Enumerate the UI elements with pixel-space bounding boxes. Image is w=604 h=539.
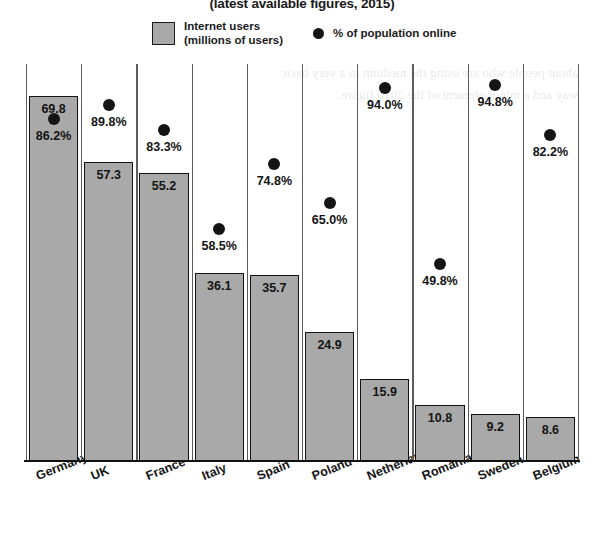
percent-dot-germany[interactable] bbox=[48, 113, 60, 125]
percent-value-label: 89.8% bbox=[73, 115, 144, 129]
percent-dot-uk[interactable] bbox=[103, 99, 115, 111]
percent-dot-france[interactable] bbox=[158, 124, 170, 136]
bar-value-label: 57.3 bbox=[81, 168, 136, 182]
bar-value-label: 8.6 bbox=[523, 423, 578, 437]
legend-dot-label: % of population online bbox=[333, 27, 456, 41]
percent-value-label: 49.8% bbox=[404, 274, 475, 288]
x-axis-label-uk: UK bbox=[89, 463, 111, 483]
legend-dot-swatch bbox=[313, 28, 324, 39]
percent-dot-spain[interactable] bbox=[268, 158, 280, 170]
bar-value-label: 9.2 bbox=[468, 420, 523, 434]
chart-title: (latest available figures, 2015) bbox=[0, 0, 604, 11]
chart-column: 10.849.8% bbox=[412, 64, 467, 462]
plot-area: 69.886.2%57.389.8%55.283.3%36.158.5%35.7… bbox=[26, 64, 578, 462]
bar-value-label: 24.9 bbox=[302, 338, 357, 352]
legend-item-internet-users: Internet users (millions of users) bbox=[152, 20, 283, 47]
bar-germany[interactable] bbox=[29, 96, 78, 462]
legend-bar-swatch bbox=[152, 22, 175, 45]
percent-value-label: 65.0% bbox=[294, 213, 365, 227]
percent-value-label: 86.2% bbox=[18, 129, 89, 143]
chart-column: 8.682.2% bbox=[523, 64, 578, 462]
legend-bar-label-line2: (millions of users) bbox=[184, 34, 283, 46]
percent-value-label: 82.2% bbox=[515, 145, 586, 159]
percent-dot-romania[interactable] bbox=[434, 258, 446, 270]
bar-value-label: 36.1 bbox=[192, 279, 247, 293]
legend-bar-label: Internet users (millions of users) bbox=[184, 20, 283, 47]
percent-dot-sweden[interactable] bbox=[489, 79, 501, 91]
chart-column: 36.158.5% bbox=[192, 64, 247, 462]
percent-value-label: 94.8% bbox=[460, 95, 531, 109]
percent-value-label: 83.3% bbox=[128, 140, 199, 154]
bar-spain[interactable] bbox=[250, 275, 299, 462]
chart-legend: Internet users (millions of users) % of … bbox=[152, 20, 456, 47]
chart-column: 57.389.8% bbox=[81, 64, 136, 462]
chart-column: 24.965.0% bbox=[302, 64, 357, 462]
chart-column: 15.994.0% bbox=[357, 64, 412, 462]
bar-france[interactable] bbox=[139, 173, 188, 462]
percent-value-label: 94.0% bbox=[349, 98, 420, 112]
percent-value-label: 58.5% bbox=[184, 239, 255, 253]
chart-gridline bbox=[578, 64, 579, 462]
legend-item-population-online: % of population online bbox=[309, 27, 456, 41]
x-axis-label-italy: Italy bbox=[200, 461, 228, 483]
chart-column: 9.294.8% bbox=[468, 64, 523, 462]
bar-value-label: 55.2 bbox=[136, 179, 191, 193]
legend-bar-label-line1: Internet users bbox=[184, 20, 260, 32]
percent-dot-belgium[interactable] bbox=[544, 129, 556, 141]
chart-column: 55.283.3% bbox=[136, 64, 191, 462]
percent-dot-italy[interactable] bbox=[213, 223, 225, 235]
chart-column: 35.774.8% bbox=[247, 64, 302, 462]
percent-dot-netherlands[interactable] bbox=[379, 82, 391, 94]
bar-value-label: 35.7 bbox=[247, 281, 302, 295]
bar-italy[interactable] bbox=[195, 273, 244, 462]
bar-value-label: 10.8 bbox=[412, 411, 467, 425]
bar-uk[interactable] bbox=[84, 162, 133, 462]
bar-value-label: 15.9 bbox=[357, 385, 412, 399]
x-axis-line bbox=[24, 460, 580, 462]
percent-dot-poland[interactable] bbox=[324, 197, 336, 209]
percent-value-label: 74.8% bbox=[239, 174, 310, 188]
